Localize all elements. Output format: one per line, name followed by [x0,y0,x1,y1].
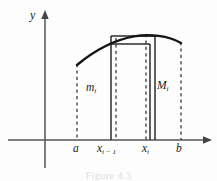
label-M-i-subscript: i [167,85,169,93]
x-axis-arrowhead [203,136,212,143]
tick-label-a: a [73,143,79,155]
y-axis-arrowhead [41,10,48,19]
tick-label-x-curr: xi [142,143,149,156]
label-M-i: Mi [157,80,169,93]
function-curve [77,35,181,65]
tick-label-b: b [176,143,182,155]
tick-label-x-prev-subscript: i − 1 [102,148,116,156]
tick-label-x-prev: xi − 1 [97,143,116,156]
tick-label-x-curr-subscript: i [147,148,149,156]
inscribed-rectangle-mi [111,44,150,140]
label-M-i-base: M [157,79,167,91]
circumscribed-rectangle-Mi [111,36,155,140]
label-m-i-subscript: i [94,87,96,95]
figure-caption: Figure 4.3 [0,170,217,181]
y-axis-label: y [30,9,35,21]
y-axis [41,10,48,168]
label-m-i: mi [86,82,96,95]
figure-container: y a xi − 1 xi b mi Mi Figure 4.3 [0,0,217,181]
